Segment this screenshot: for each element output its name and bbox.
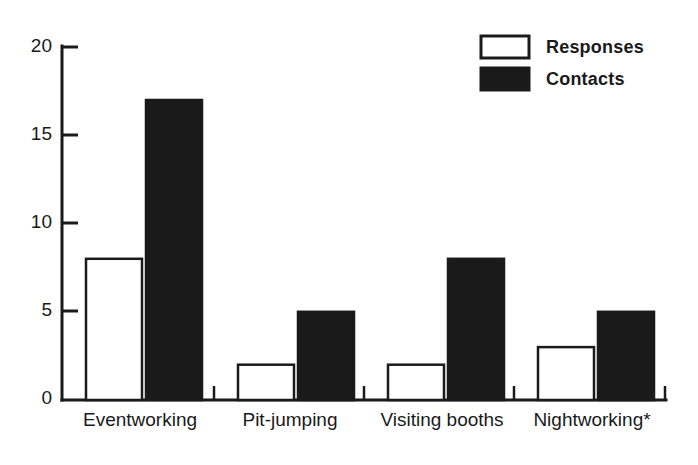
- bar-responses-eventworking: [86, 259, 142, 400]
- bar-contacts-pit-jumping: [298, 312, 354, 400]
- legend-label-contacts: Contacts: [546, 69, 625, 89]
- x-tick-label-nightworking: Nightworking*: [533, 409, 651, 430]
- y-tick-label-20: 20: [31, 35, 52, 56]
- y-tick-label-15: 15: [31, 123, 52, 144]
- chart-legend: Responses Contacts: [481, 36, 644, 90]
- legend-entry-contacts: Contacts: [481, 68, 625, 90]
- bar-group-pit-jumping: [238, 312, 354, 400]
- x-tick-label-pit-jumping: Pit-jumping: [242, 409, 337, 430]
- legend-label-responses: Responses: [546, 37, 644, 57]
- bar-group-eventworking: [86, 100, 202, 400]
- bar-group-nightworking: [538, 312, 654, 400]
- y-axis: 20 15 10 5 0: [31, 35, 78, 408]
- bar-contacts-visiting-booths: [448, 259, 504, 400]
- bar-group-visiting-booths: [388, 259, 504, 400]
- bar-responses-pit-jumping: [238, 365, 294, 400]
- bar-chart-figure: 20 15 10 5 0 Eventworking Pit-jumping Vi…: [0, 0, 698, 465]
- y-tick-label-5: 5: [41, 299, 52, 320]
- chart-canvas: 20 15 10 5 0 Eventworking Pit-jumping Vi…: [0, 0, 698, 465]
- y-tick-label-0: 0: [41, 387, 52, 408]
- filled-square-swatch-icon: [481, 68, 529, 90]
- open-square-swatch-icon: [481, 36, 529, 58]
- x-tick-label-eventworking: Eventworking: [83, 409, 197, 430]
- y-tick-label-10: 10: [31, 211, 52, 232]
- x-tick-label-visiting-booths: Visiting booths: [380, 409, 503, 430]
- bar-responses-visiting-booths: [388, 365, 444, 400]
- bar-responses-nightworking: [538, 347, 594, 400]
- legend-entry-responses: Responses: [481, 36, 644, 58]
- bar-contacts-eventworking: [146, 100, 202, 400]
- bar-contacts-nightworking: [598, 312, 654, 400]
